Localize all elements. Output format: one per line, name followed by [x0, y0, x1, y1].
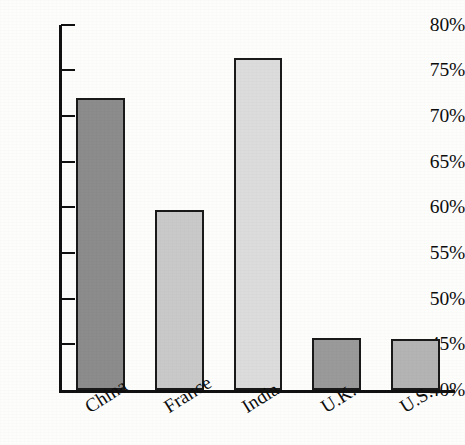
bar-india[interactable] — [234, 58, 283, 390]
bar-france[interactable] — [155, 210, 204, 390]
plot-area — [61, 25, 455, 390]
bar-china[interactable] — [76, 98, 125, 390]
bar-uk[interactable] — [312, 338, 361, 390]
bar-us[interactable] — [391, 339, 440, 390]
bar-chart: 40%45%50%55%60%65%70%75%80% ChinaFranceI… — [0, 0, 465, 445]
